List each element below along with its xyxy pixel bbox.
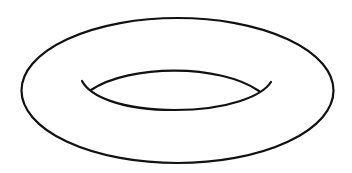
torus-figure	[0, 0, 352, 173]
torus-hole-upper-arc	[91, 71, 259, 91]
torus-hole-lower-arc	[82, 81, 271, 110]
torus-outer-edge	[22, 18, 334, 163]
torus-drawing	[0, 0, 352, 173]
